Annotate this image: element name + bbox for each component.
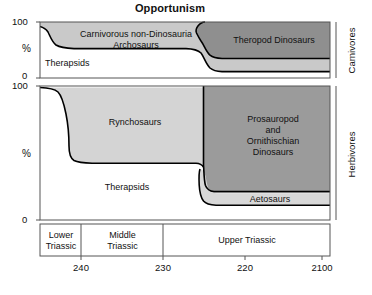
epoch-lower-triassic-line2: Triassic: [41, 241, 81, 252]
epoch-middle-triassic-line2: Triassic: [82, 241, 163, 252]
label-prosauropod-line4: Dinosaurs: [222, 147, 324, 158]
y-axis-top-unit: %: [22, 43, 31, 54]
x-axis-tick-label-4: 2100: [302, 262, 342, 273]
right-axis-title-herbivores: Herbivores: [346, 115, 357, 195]
label-prosauropod-line1: Prosauropod: [222, 114, 324, 125]
epoch-middle-triassic: Middle Triassic: [82, 230, 163, 252]
label-theropod-dinosaurs: Theropod Dinosaurs: [222, 35, 326, 46]
label-therapsids-carnivores: Therapsids: [45, 58, 125, 69]
label-carnivorous-archosaurs-line2: Archosaurs: [60, 40, 212, 51]
y-axis-bottom-max: 100: [12, 80, 28, 91]
x-axis-tick-label-2: 230: [143, 262, 183, 273]
x-axis-tick-label-1: 240: [61, 262, 101, 273]
label-prosauropod-line2: and: [222, 125, 324, 136]
right-axis-title-carnivores: Carnivores: [346, 11, 357, 91]
epoch-upper-triassic-line1: Upper Triassic: [164, 235, 330, 246]
label-therapsids-herbivores: Therapsids: [85, 182, 169, 193]
y-axis-bottom-min: 0: [22, 214, 27, 225]
label-prosauropod-line3: Ornithischian: [222, 136, 324, 147]
epoch-lower-triassic: Lower Triassic: [41, 230, 81, 252]
label-aetosaurs: Aetosaurs: [222, 194, 318, 205]
epoch-lower-triassic-line1: Lower: [41, 230, 81, 241]
chart-container: Opportunism: [0, 0, 372, 295]
label-rynchosaurs: Rynchosaurs: [90, 117, 180, 128]
y-axis-top-max: 100: [12, 16, 28, 27]
y-axis-bottom-unit: %: [22, 148, 31, 159]
label-carnivorous-archosaurs-line1: Carnivorous non-Dinosauria: [60, 29, 212, 40]
epoch-middle-triassic-line1: Middle: [82, 230, 163, 241]
epoch-upper-triassic: Upper Triassic: [164, 235, 330, 246]
x-axis-tick-label-3: 220: [225, 262, 265, 273]
